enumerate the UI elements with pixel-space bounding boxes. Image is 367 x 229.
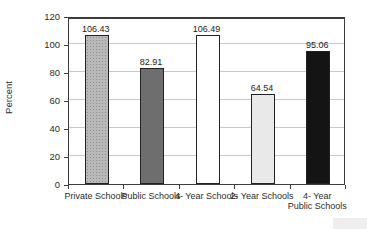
y-tick-mark	[64, 157, 68, 158]
x-tick-mark	[179, 185, 180, 189]
x-tick-mark	[345, 185, 346, 189]
category-label: 4- Year Public Schools	[275, 191, 359, 211]
bar-value-label: 106.49	[177, 24, 237, 34]
y-tick-mark	[64, 101, 68, 102]
bar-public-schools	[140, 68, 164, 184]
y-tick-label: 100	[30, 40, 60, 50]
bar-value-label: 95.06	[287, 40, 347, 50]
x-tick-mark	[123, 185, 124, 189]
scan-artifact	[333, 218, 367, 229]
y-tick-label: 0	[30, 180, 60, 190]
bar-value-label: 82.91	[121, 57, 181, 67]
y-tick-mark	[64, 129, 68, 130]
y-tick-label: 80	[30, 68, 60, 78]
y-tick-mark	[64, 45, 68, 46]
y-tick-label: 60	[30, 96, 60, 106]
bar-4-year	[306, 51, 330, 184]
y-axis-title: Percent	[3, 63, 14, 133]
y-tick-label: 40	[30, 124, 60, 134]
bar-value-label: 64.54	[232, 83, 292, 93]
y-tick-mark	[64, 73, 68, 74]
x-tick-mark	[68, 185, 69, 189]
y-tick-mark	[64, 17, 68, 18]
bar-value-label: 106.43	[66, 24, 126, 34]
x-tick-mark	[234, 185, 235, 189]
y-tick-label: 20	[30, 152, 60, 162]
bar-private-schools	[85, 35, 109, 184]
bar-chart-figure: Percent 020406080100120 Private SchoolsP…	[0, 0, 367, 229]
bar-4-year-schools	[196, 35, 220, 184]
bar-2-year-schools	[251, 94, 275, 184]
x-tick-mark	[290, 185, 291, 189]
y-tick-label: 120	[30, 12, 60, 22]
